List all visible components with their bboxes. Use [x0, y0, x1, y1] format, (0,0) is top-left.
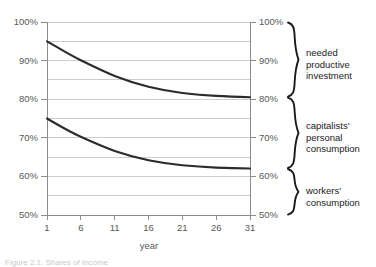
y-left-tick-50: 50% [0, 209, 38, 220]
bracket-label-capitalists-personal-consumption: capitalists' personal consumption [306, 120, 360, 155]
x-tick-6: 6 [65, 222, 97, 233]
y-left-tick-70: 70% [0, 132, 38, 143]
bracket-needed-productive-investment [288, 23, 299, 97]
bracket-label-line-1: workers' [306, 185, 360, 197]
curve-lower-boundary [47, 119, 250, 169]
bracket-label-workers-consumption: workers' consumption [306, 185, 360, 208]
y-right-tick-100: 100% [259, 16, 283, 27]
bracket-label-line-2: personal [306, 132, 360, 144]
figure-caption: Figure 2.1: Shares of Income [5, 258, 108, 267]
x-tick-31: 31 [234, 222, 266, 233]
bracket-capitalists-personal-consumption [288, 98, 299, 168]
bracket-label-line-2: productive [306, 59, 352, 71]
bracket-label-line-1: capitalists' [306, 120, 360, 132]
bracket-label-line-3: consumption [306, 143, 360, 155]
x-axis-title: year [124, 240, 174, 251]
bracket-label-line-3: investment [306, 70, 352, 82]
x-tick-26: 26 [200, 222, 232, 233]
x-ticks [47, 215, 250, 220]
y-left-tick-80: 80% [0, 93, 38, 104]
x-tick-21: 21 [166, 222, 198, 233]
figure-container: 100% 90% 80% 70% 60% 50% 100% 90% 80% 70… [0, 0, 376, 267]
y-left-tick-100: 100% [0, 16, 38, 27]
y-right-tick-70: 70% [259, 132, 278, 143]
y-left-tick-90: 90% [0, 55, 38, 66]
bracket-label-line-2: consumption [306, 197, 360, 209]
curve-upper-boundary [47, 41, 250, 97]
y-left-tick-60: 60% [0, 170, 38, 181]
x-tick-11: 11 [99, 222, 131, 233]
y-right-tick-80: 80% [259, 93, 278, 104]
grouping-brackets [288, 23, 299, 215]
x-tick-1: 1 [31, 222, 63, 233]
y-right-tick-90: 90% [259, 55, 278, 66]
y-right-ticks [250, 22, 256, 215]
bracket-label-needed-productive-investment: needed productive investment [306, 47, 352, 82]
bracket-label-line-1: needed [306, 47, 352, 59]
y-right-tick-60: 60% [259, 170, 278, 181]
bracket-workers-consumption [288, 169, 299, 215]
y-right-tick-50: 50% [259, 209, 278, 220]
gridlines [47, 22, 250, 196]
x-tick-16: 16 [133, 222, 165, 233]
